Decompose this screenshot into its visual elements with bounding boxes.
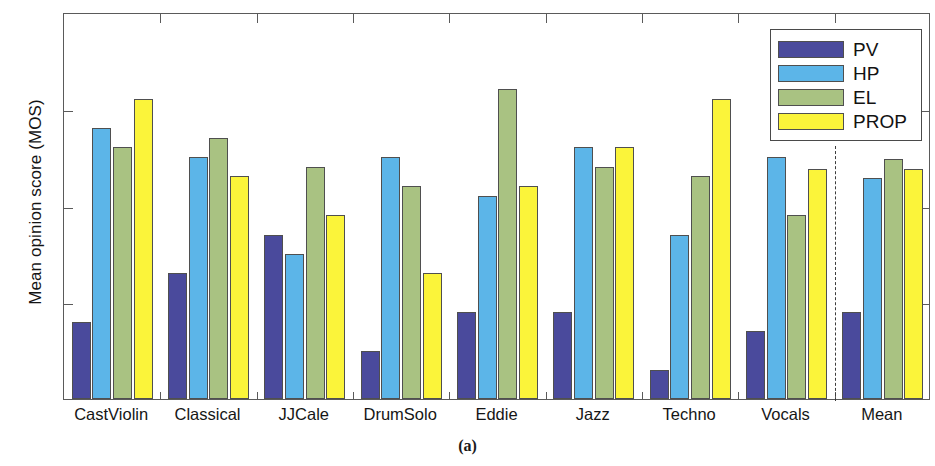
x-axis-label-classical: Classical — [174, 405, 240, 424]
figure-caption: (a) — [0, 437, 935, 455]
x-axis-label-jazz: Jazz — [576, 405, 610, 424]
legend-label-el: EL — [853, 88, 876, 107]
legend-swatch-el — [778, 89, 844, 106]
legend-item-hp[interactable]: HP — [778, 61, 913, 85]
x-axis-label-eddie: Eddie — [475, 405, 517, 424]
x-axis-label-jjcale: JJCale — [279, 405, 329, 424]
legend-label-prop: PROP — [853, 112, 907, 131]
legend-item-pv[interactable]: PV — [778, 37, 913, 61]
legend-label-pv: PV — [853, 40, 878, 59]
figure-panel: Mean opinion score (MOS) 12345 CastVioli… — [0, 0, 935, 466]
legend-swatch-pv — [778, 41, 844, 58]
legend-swatch-hp — [778, 65, 844, 82]
x-axis-label-castviolin: CastViolin — [74, 405, 148, 424]
x-axis-label-techno: Techno — [663, 405, 716, 424]
legend-label-hp: HP — [853, 64, 879, 83]
y-axis-title: Mean opinion score (MOS) — [26, 37, 46, 367]
x-axis-label-drumsolo: DrumSolo — [363, 405, 436, 424]
x-axis-label-mean: Mean — [861, 405, 902, 424]
legend-swatch-prop — [778, 113, 844, 130]
x-axis-label-vocals: Vocals — [761, 405, 810, 424]
mean-group-separator — [835, 146, 836, 401]
chart-legend: PVHPELPROP — [770, 29, 922, 141]
legend-item-el[interactable]: EL — [778, 85, 913, 109]
legend-item-prop[interactable]: PROP — [778, 109, 913, 133]
